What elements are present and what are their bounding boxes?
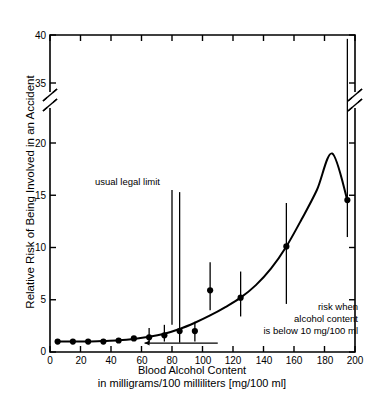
- data-point: [283, 243, 289, 249]
- annotation-baseline-line1: risk when: [254, 301, 358, 313]
- annotation-baseline-line3: is below 10 mg/100 ml: [254, 325, 358, 337]
- data-point: [192, 328, 198, 334]
- data-point: [55, 338, 61, 344]
- x-axis-title: Blood Alcohol Content in milligrams/100 …: [0, 364, 384, 390]
- data-point: [146, 334, 152, 340]
- data-point: [100, 338, 106, 344]
- data-point: [116, 337, 122, 343]
- annotation-baseline-line2: alcohol content: [254, 313, 358, 325]
- x-axis-title-line1: Blood Alcohol Content: [0, 364, 384, 377]
- y-axis-title: Relative Risk of Being Involved in an Ac…: [24, 32, 36, 352]
- data-point: [177, 328, 183, 334]
- data-point: [70, 338, 76, 344]
- data-point: [161, 332, 167, 338]
- plot-canvas: [0, 0, 384, 413]
- annotation-baseline-risk: risk when alcohol content is below 10 mg…: [254, 301, 358, 337]
- annotation-usual-legal-limit: usual legal limit: [95, 176, 160, 188]
- data-point: [344, 197, 350, 203]
- data-point: [85, 338, 91, 344]
- x-axis-title-line2: in milligrams/100 milliliters [mg/100 ml…: [0, 377, 384, 390]
- data-point: [238, 295, 244, 301]
- data-point: [207, 287, 213, 293]
- data-point: [131, 335, 137, 341]
- risk-vs-bac-chart: 40 35 20 15 10 5 0 0 20 40 60 80 100 120…: [0, 0, 384, 413]
